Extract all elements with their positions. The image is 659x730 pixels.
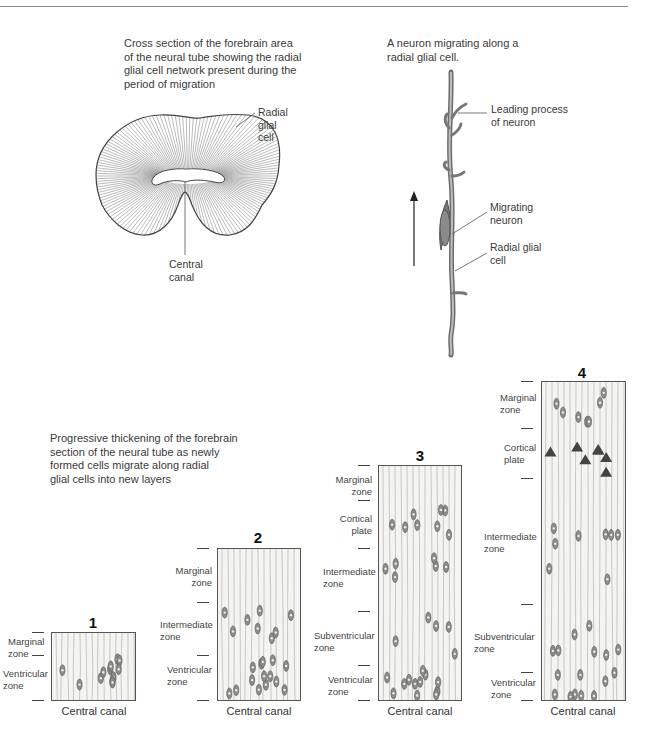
panel-2-central-canal: Central canal <box>213 705 305 717</box>
cell-layer-illustration <box>52 633 135 700</box>
zone-label-marginal: Marginal zone <box>500 392 536 415</box>
zone-divider <box>197 602 209 603</box>
panel-4-central-canal: Central canal <box>537 705 629 717</box>
zone-divider <box>521 700 533 701</box>
zone-label-ventricular: Ventricular zone <box>328 674 373 697</box>
zone-label-marginal: Marginal zone <box>334 474 372 497</box>
zone-label-subventricular: Subventricular zone <box>474 631 535 654</box>
zone-divider <box>358 500 370 501</box>
panel-1-number: 1 <box>78 614 108 631</box>
zone-divider <box>358 700 370 701</box>
panel-3-stage <box>378 465 462 701</box>
zone-divider <box>521 604 533 605</box>
zone-label-ventricular: Ventricular zone <box>3 668 48 691</box>
panel-2-number: 2 <box>243 529 273 546</box>
zone-divider <box>197 548 209 549</box>
cell-layer-illustration <box>379 466 461 700</box>
zone-divider <box>197 655 209 656</box>
zone-label-cortical-plate: Cortical plate <box>504 442 536 465</box>
panel-4-stage <box>541 381 626 701</box>
zone-label-ventricular: Ventricular zone <box>167 664 212 687</box>
cell-layer-illustration <box>218 549 300 700</box>
zone-divider <box>358 611 370 612</box>
zone-label-ventricular: Ventricular zone <box>491 677 536 700</box>
zone-divider <box>32 632 44 633</box>
cell-layer-illustration <box>542 382 625 700</box>
zone-divider <box>358 665 370 666</box>
zone-divider <box>521 381 533 382</box>
zone-divider <box>197 700 209 701</box>
zone-divider <box>521 478 533 479</box>
zone-label-intermediate: Intermediate zone <box>484 531 537 554</box>
panel-1-central-canal: Central canal <box>48 705 140 717</box>
panel-4-number: 4 <box>567 364 597 381</box>
zone-label-marginal: Marginal zone <box>174 565 212 588</box>
zone-label-cortical-plate: Cortical plate <box>334 513 372 536</box>
panel-3-central-canal: Central canal <box>374 705 466 717</box>
panel-3-number: 3 <box>405 447 435 464</box>
zone-divider <box>358 548 370 549</box>
zone-divider <box>32 700 44 701</box>
progression-caption: Progressive thickening of the forebrain … <box>50 432 238 486</box>
zone-divider <box>358 465 370 466</box>
zone-label-subventricular: Subventricular zone <box>314 630 375 653</box>
zone-label-intermediate: Intermediate zone <box>323 566 376 589</box>
zone-divider <box>521 428 533 429</box>
radial-glial-cell-label-2: Radial glial cell <box>490 241 541 266</box>
panel-1-stage <box>51 632 136 701</box>
leading-process-label: Leading process of neuron <box>491 103 568 128</box>
panel-2-stage <box>217 548 301 701</box>
migrating-neuron-label: Migrating neuron <box>490 201 533 226</box>
zone-label-marginal: Marginal zone <box>8 636 44 659</box>
zone-label-intermediate: Intermediate zone <box>160 619 213 642</box>
zone-divider <box>521 672 533 673</box>
